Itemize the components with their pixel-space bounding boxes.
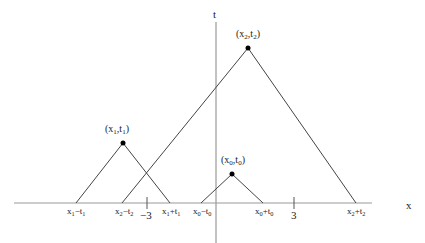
point-p1 [121, 141, 126, 146]
t-axis-label: t [213, 9, 216, 20]
base-label-p1-right: x1+t1 [162, 207, 180, 217]
base-label-p2-left: x2−t2 [115, 207, 133, 217]
cone-p0 [201, 174, 263, 203]
base-label-p0-left: x0−t0 [193, 207, 211, 217]
cone-p2 [122, 48, 356, 203]
x-axis-label: x [406, 200, 412, 211]
base-label-p1-left: x1−t1 [67, 207, 85, 217]
point-label-p1: (x1,t1) [105, 124, 129, 136]
tick-label-3: 3 [291, 210, 297, 221]
base-label-p2-right: x2+t2 [347, 207, 365, 217]
tick-label-minus-3: −3 [140, 210, 152, 221]
point-p2 [246, 46, 251, 51]
cone-p1 [76, 143, 170, 203]
point-label-p2: (x2,t2) [236, 29, 260, 41]
base-label-p0-right: x0+t0 [255, 207, 273, 217]
point-p0 [230, 172, 235, 177]
point-label-p0: (x0,t0) [221, 155, 245, 167]
